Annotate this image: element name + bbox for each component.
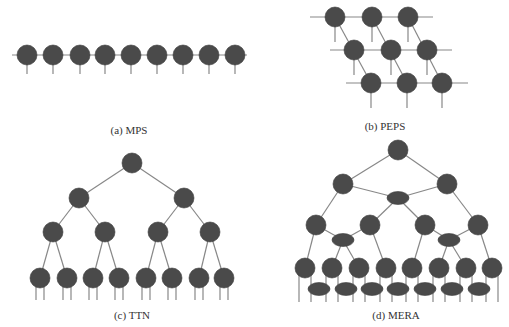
tensor-network-figure: [0, 0, 509, 327]
mps-nodes: [17, 45, 245, 65]
caption-mera: (d) MERA: [372, 309, 419, 321]
caption-ttn: (c) TTN: [114, 309, 150, 321]
peps-nodes: [325, 7, 452, 93]
caption-mps: (a) MPS: [111, 124, 148, 136]
caption-peps: (b) PEPS: [365, 120, 406, 132]
ttn-nodes: [30, 153, 234, 288]
mera-nodes: [295, 140, 502, 296]
